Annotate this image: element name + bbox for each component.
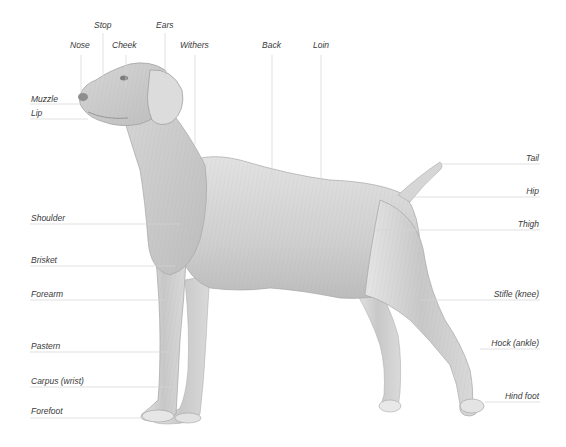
label-thigh: Thigh — [518, 219, 539, 229]
label-carpus: Carpus (wrist) — [31, 376, 84, 386]
label-forearm: Forearm — [31, 289, 63, 299]
label-back: Back — [262, 40, 281, 50]
label-lip: Lip — [31, 108, 42, 118]
label-ears: Ears — [156, 20, 173, 30]
label-hind-foot: Hind foot — [505, 391, 539, 401]
label-brisket: Brisket — [31, 255, 57, 265]
label-nose: Nose — [70, 40, 90, 50]
label-cheek: Cheek — [112, 40, 137, 50]
dog-anatomy-diagram: Nose Stop Cheek Ears Withers Back Loin M… — [0, 0, 566, 447]
label-stifle: Stifle (knee) — [494, 289, 539, 299]
label-forefoot: Forefoot — [31, 406, 63, 416]
label-muzzle: Muzzle — [31, 94, 58, 104]
label-pastern: Pastern — [31, 341, 60, 351]
label-withers: Withers — [180, 40, 209, 50]
label-tail: Tail — [526, 153, 539, 163]
leader-lines — [0, 0, 566, 447]
label-hip: Hip — [526, 186, 539, 196]
label-stop: Stop — [94, 20, 112, 30]
label-loin: Loin — [313, 40, 329, 50]
label-hock: Hock (ankle) — [491, 338, 539, 348]
label-shoulder: Shoulder — [31, 213, 65, 223]
